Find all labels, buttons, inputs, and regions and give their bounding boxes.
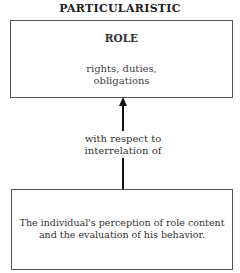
perception-text-line: The individual's perception of role cont… [12,217,232,229]
perception-text: The individual's perception of role cont… [12,217,232,241]
role-content: rights, duties, obligations [11,63,232,87]
perception-text-line: and the evaluation of his behavior. [12,229,232,241]
connector-label: with respect to interrelation of [0,133,240,157]
role-label: ROLE [11,32,232,44]
connector-line-lower [122,158,124,190]
role-content-line: obligations [11,75,232,87]
perception-box: The individual's perception of role cont… [11,189,233,270]
role-content-line: rights, duties, [11,63,232,75]
connector-label-line: with respect to [0,133,240,145]
connector-label-line: interrelation of [0,145,240,157]
diagram-title: PARTICULARISTIC [0,2,240,15]
role-box: ROLE rights, duties, obligations [10,20,233,98]
connector-line-upper [122,104,124,131]
